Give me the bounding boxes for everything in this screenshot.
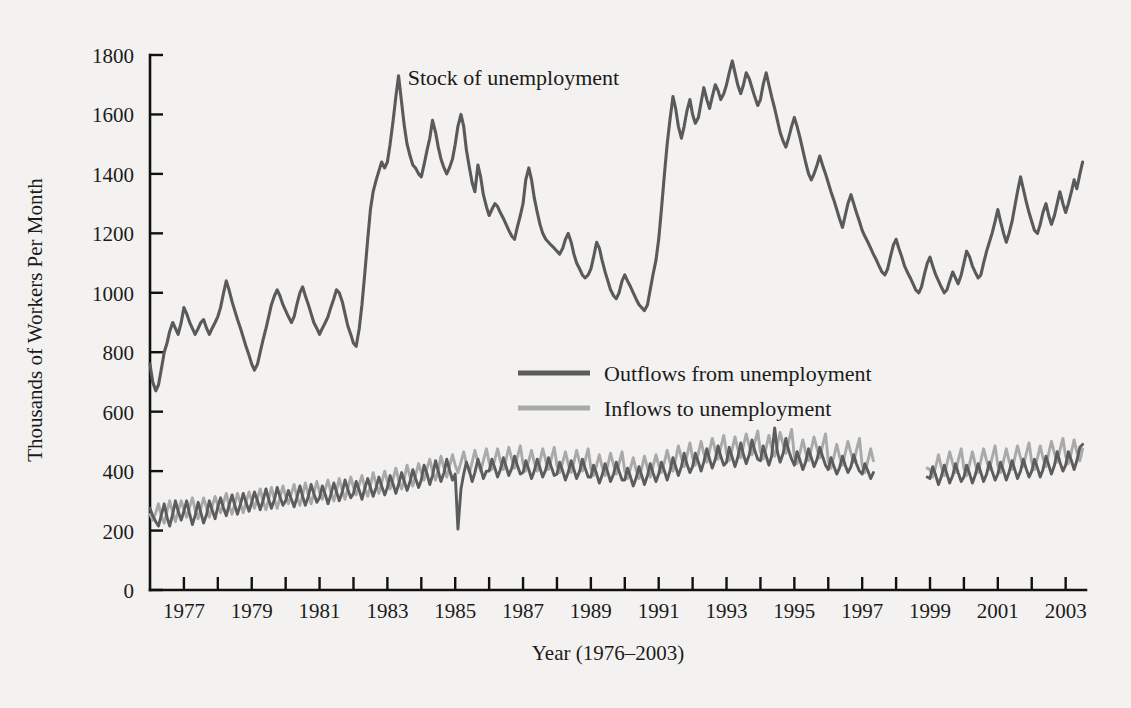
y-axis-tick-label: 600 <box>103 401 135 425</box>
x-axis-tick-label: 1999 <box>909 599 951 623</box>
chart-legend: Outflows from unemployment Inflows to un… <box>518 361 872 421</box>
x-axis-ticks <box>184 577 1066 590</box>
x-axis-tick-labels: 1977197919811983198519871989199119931995… <box>163 599 1087 623</box>
x-axis-tick-label: 1997 <box>841 599 883 623</box>
x-axis-tick-label: 2003 <box>1045 599 1087 623</box>
stock-annotation-label: Stock of unemployment <box>408 65 619 90</box>
line-chart-svg: 020040060080010001200140016001800 197719… <box>0 0 1131 708</box>
y-axis-tick-label: 1400 <box>92 163 134 187</box>
x-axis-tick-label: 1993 <box>706 599 748 623</box>
x-axis-tick-label: 1985 <box>434 599 476 623</box>
x-axis-tick-label: 1987 <box>502 599 544 623</box>
x-axis-title: Year (1976–2003) <box>532 641 684 665</box>
series-stock-of-unemployment <box>150 61 1083 391</box>
y-axis-tick-label: 0 <box>124 579 135 603</box>
x-axis-tick-label: 1995 <box>773 599 815 623</box>
x-axis-tick-label: 1989 <box>570 599 612 623</box>
y-axis-tick-label: 1200 <box>92 222 134 246</box>
y-axis-tick-label: 1600 <box>92 103 134 127</box>
y-axis-tick-label: 400 <box>103 460 135 484</box>
y-axis-tick-label: 800 <box>103 341 135 365</box>
x-axis-tick-label: 1991 <box>638 599 680 623</box>
y-axis-tick-label: 1000 <box>92 282 134 306</box>
x-axis-tick-label: 1983 <box>366 599 408 623</box>
legend-label-outflows: Outflows from unemployment <box>604 361 872 386</box>
x-axis-tick-label: 1979 <box>231 599 273 623</box>
y-axis-title: Thousands of Workers Per Month <box>23 178 47 462</box>
x-axis-tick-label: 2001 <box>977 599 1019 623</box>
chart-figure: 020040060080010001200140016001800 197719… <box>0 0 1131 708</box>
x-axis-tick-label: 1981 <box>299 599 341 623</box>
x-axis-tick-label: 1977 <box>163 599 205 623</box>
legend-label-inflows: Inflows to unemployment <box>604 396 831 421</box>
y-axis-tick-labels: 020040060080010001200140016001800 <box>92 44 134 603</box>
y-axis-tick-label: 1800 <box>92 44 134 68</box>
y-axis-tick-label: 200 <box>103 520 135 544</box>
series-outflows-from-unemployment <box>150 428 1083 529</box>
